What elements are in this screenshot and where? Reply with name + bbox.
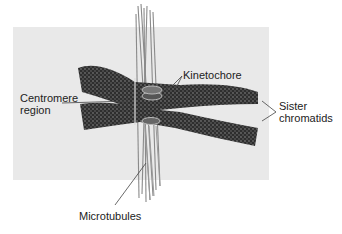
sister-chromatids-label: Sister chromatids [279, 100, 333, 124]
microtubules-label: Microtubules [79, 210, 141, 222]
kinetochore-label: Kinetochore [183, 69, 242, 81]
centromere-label-line1: Centromere [20, 92, 78, 104]
sister-label-line2: chromatids [279, 112, 333, 124]
centromere-label: Centromere region [20, 92, 78, 116]
centromere-label-line2: region [20, 104, 78, 116]
sister-label-line1: Sister [279, 100, 333, 112]
